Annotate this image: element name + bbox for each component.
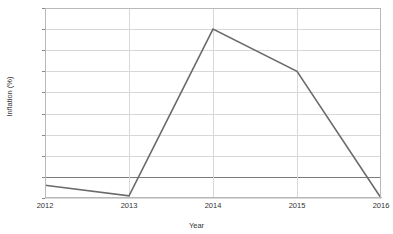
x-tick-label: 2014 (191, 201, 235, 210)
chart-title (0, 0, 393, 3)
gridline-horizontal (45, 198, 381, 199)
x-tick-label: 2012 (23, 201, 67, 210)
x-tick-label: 2016 (359, 201, 393, 210)
x-tick-label: 2013 (107, 201, 151, 210)
y-axis-title: Inflation (%) (5, 57, 14, 137)
x-axis-title: Year (0, 221, 393, 230)
y-tick-mark (42, 198, 45, 199)
plot-area: 43.532.521.510.50-0.5 201220132014201520… (45, 8, 381, 198)
x-tick-label: 2015 (275, 201, 319, 210)
series-plot (45, 8, 381, 198)
inflation-line-chart: Inflation (%) 43.532.521.510.50-0.5 2012… (0, 0, 393, 234)
inflation-series-line (45, 29, 381, 198)
